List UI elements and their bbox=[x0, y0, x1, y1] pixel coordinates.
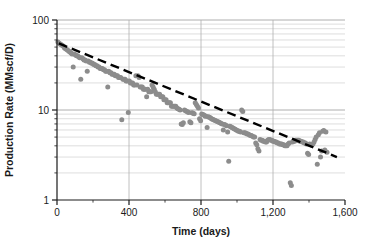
x-tick-label: 800 bbox=[193, 207, 210, 218]
chart-canvas: 110100 04008001,2001,600 Time (days) Pro… bbox=[0, 0, 380, 242]
y-axis-title: Production Rate (MMscf/D) bbox=[3, 43, 15, 177]
y-tick-label: 10 bbox=[38, 105, 50, 116]
y-tick-label: 1 bbox=[43, 195, 49, 206]
x-tick-label: 1,200 bbox=[260, 207, 285, 218]
x-tick-label: 0 bbox=[54, 207, 60, 218]
x-tick-label: 1,600 bbox=[332, 207, 357, 218]
x-tick-label: 400 bbox=[121, 207, 138, 218]
x-axis-title: Time (days) bbox=[172, 225, 230, 237]
production-decline-chart: 110100 04008001,2001,600 Time (days) Pro… bbox=[0, 0, 380, 242]
y-tick-label: 100 bbox=[32, 15, 49, 26]
